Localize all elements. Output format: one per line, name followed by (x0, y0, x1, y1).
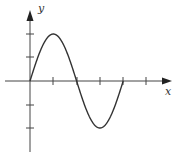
chart: y x (0, 0, 177, 152)
y-axis-label: y (37, 2, 45, 15)
x-axis-arrow-icon (162, 78, 172, 85)
y-axis-arrow-icon (27, 10, 34, 21)
x-axis-label: x (165, 85, 172, 98)
